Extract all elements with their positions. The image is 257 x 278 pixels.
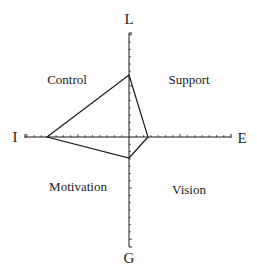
axes (25, 33, 231, 247)
diagram-canvas (0, 0, 257, 278)
quadrant-label-control: Control (47, 73, 87, 86)
quadrant-diagram: L E G I Control Support Motivation Visio… (0, 0, 257, 278)
axis-label-i: I (13, 130, 18, 145)
quadrant-label-support: Support (168, 73, 209, 86)
profile-polygon (47, 75, 148, 158)
axis-label-l: L (124, 12, 133, 27)
quadrant-label-vision: Vision (172, 183, 206, 196)
quadrant-label-motivation: Motivation (49, 180, 107, 193)
axis-label-g: G (124, 251, 135, 266)
axis-label-e: E (237, 131, 246, 146)
